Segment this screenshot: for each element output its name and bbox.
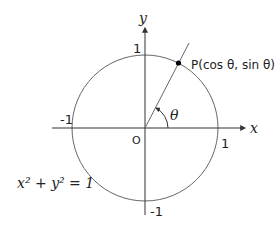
angle-arc (156, 108, 168, 128)
circle-equation: x² + y² = 1 (17, 175, 94, 191)
point-p-label: P(cos θ, sin θ) (191, 58, 275, 72)
tick-x-pos: 1 (221, 136, 229, 151)
x-axis-label: x (250, 120, 258, 136)
unit-circle-diagram: y x O 1 -1 1 -1 P(cos θ, sin θ) θ x² + y… (0, 0, 278, 230)
point-p (176, 60, 181, 65)
angle-theta-label: θ (170, 107, 179, 123)
tick-x-neg: -1 (60, 112, 73, 127)
tick-y-neg: -1 (150, 204, 163, 219)
diagram-svg: y x O 1 -1 1 -1 P(cos θ, sin θ) θ x² + y… (0, 0, 278, 230)
origin-label: O (132, 134, 141, 147)
tick-y-pos: 1 (133, 41, 141, 56)
y-axis-label: y (138, 10, 148, 26)
